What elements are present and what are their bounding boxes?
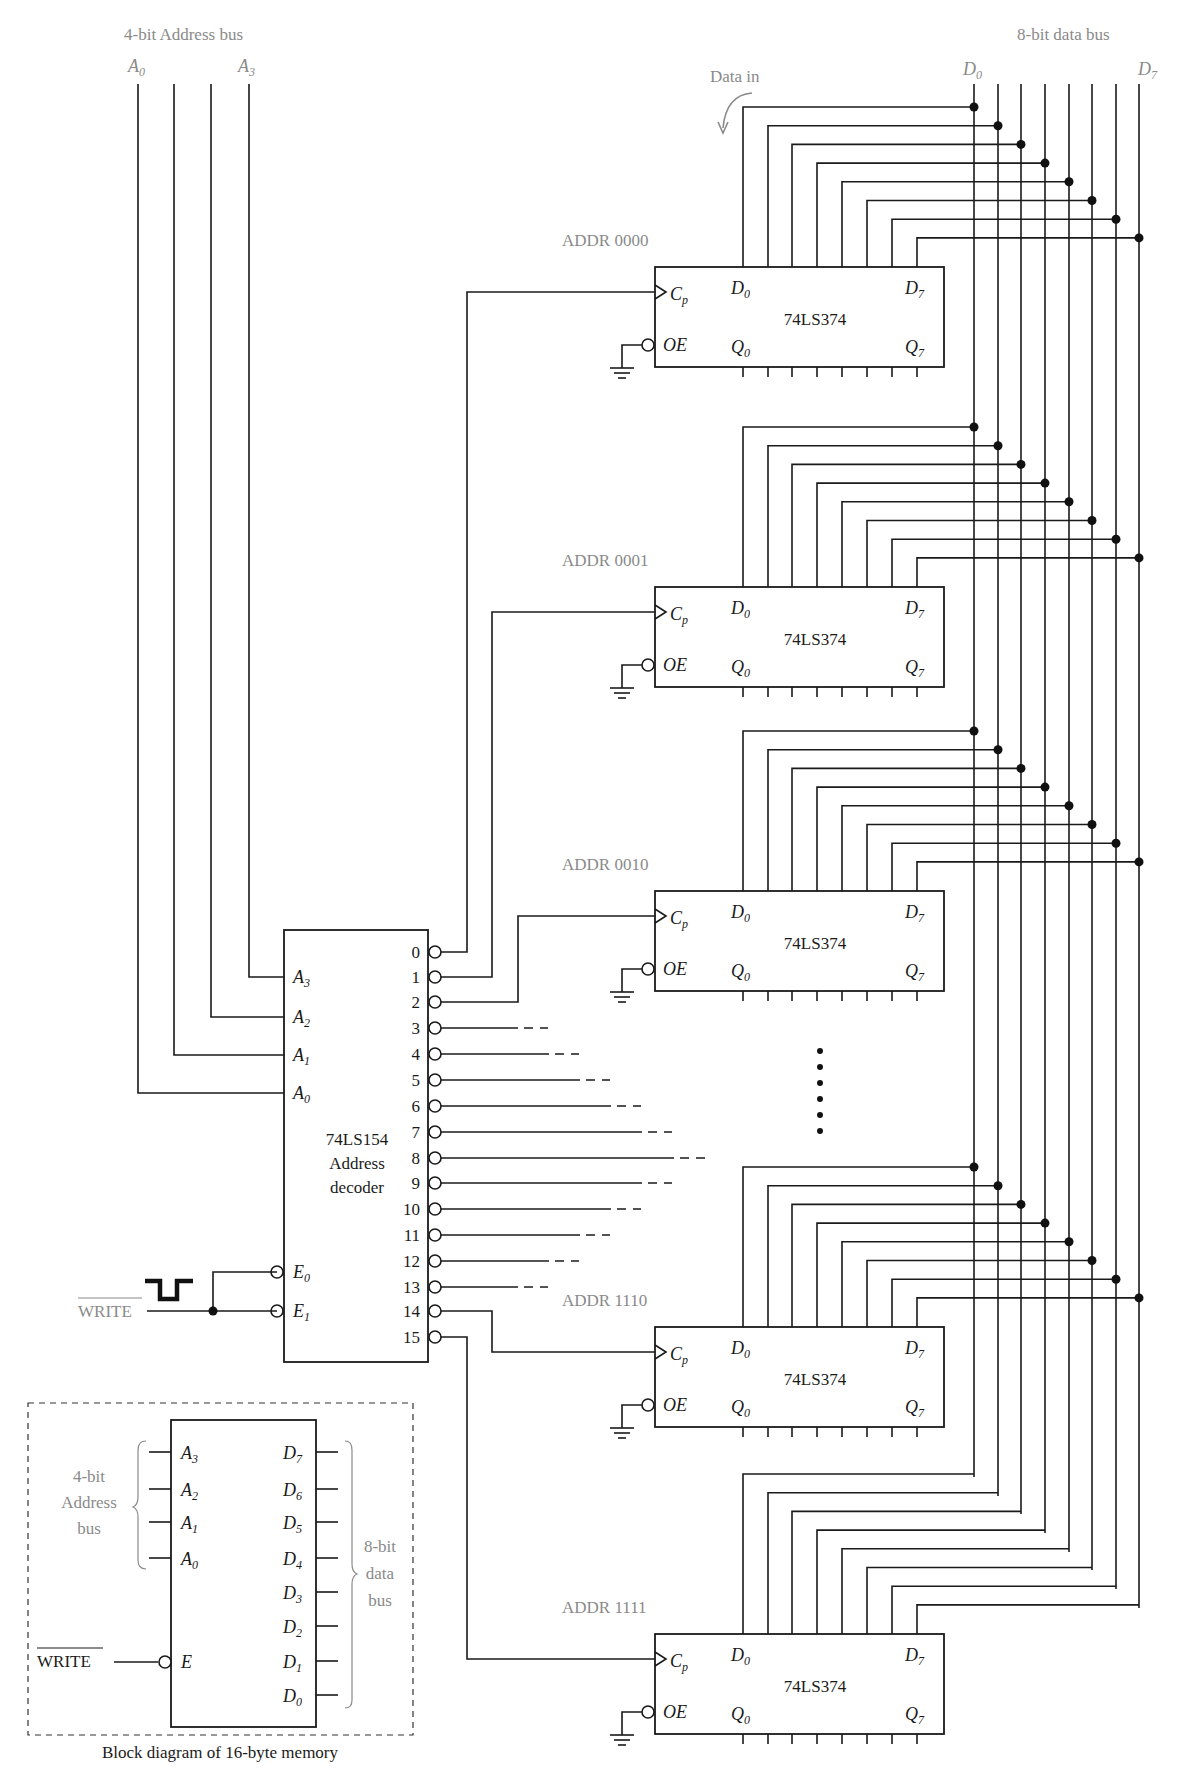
block-data-bus-label: 8-bit (364, 1537, 396, 1556)
data-bus-d0-label: D0 (962, 59, 982, 82)
data-brace-icon (345, 1441, 357, 1708)
register-3-d5-tap (867, 1261, 1092, 1328)
bus-junction-dot (1112, 839, 1121, 848)
register-1-d3-tap (817, 483, 1045, 587)
bus-junction-dot (1112, 215, 1121, 224)
memory-block-box (171, 1420, 316, 1727)
address-brace-icon (133, 1441, 146, 1569)
ellipsis-dot (817, 1112, 823, 1118)
output-bubble-icon (429, 1022, 441, 1034)
register-3-d3-tap (817, 1223, 1045, 1327)
address-bus-a0-label: A0 (127, 56, 145, 79)
decoder-output-13-label: 13 (403, 1278, 420, 1297)
bus-junction-dot (1017, 140, 1026, 149)
register-1-d1-tap (768, 446, 998, 587)
ellipsis-dot (817, 1080, 823, 1086)
bus-junction-dot (1065, 1237, 1074, 1246)
block-data-bus-label: bus (368, 1591, 392, 1610)
bus-junction-dot (1041, 159, 1050, 168)
register-2-d0-tap (743, 731, 974, 891)
bus-junction-dot (1088, 820, 1097, 829)
bus-junction-dot (1088, 516, 1097, 525)
output-bubble-icon (429, 1048, 441, 1060)
bus-junction-dot (1065, 801, 1074, 810)
register-addr-0000: ADDR 0000CpOED0D7Q0Q774LS374 (562, 231, 944, 378)
register-chip-name: 74LS374 (784, 1370, 847, 1389)
bus-junction-dot (1135, 857, 1144, 866)
register-0-d5-tap (867, 201, 1092, 268)
oe-ground-wire (622, 1712, 642, 1735)
bus-junction-dot (970, 727, 979, 736)
register-1-d4-tap (842, 502, 1069, 587)
oe-bubble-icon (642, 1399, 654, 1411)
oe-label: OE (663, 335, 687, 355)
decoder-subtitle: Address (329, 1154, 385, 1173)
output-bubble-icon (429, 1331, 441, 1343)
register-address-label: ADDR 1111 (562, 1598, 647, 1617)
oe-bubble-icon (642, 963, 654, 975)
decoder-output-11-label: 11 (404, 1226, 420, 1245)
clock-route-output-14 (441, 1311, 655, 1352)
oe-label: OE (663, 1395, 687, 1415)
more-registers-ellipsis (817, 1048, 823, 1134)
register-chip-name: 74LS374 (784, 630, 847, 649)
block-address-bus-label: 4-bit (73, 1467, 105, 1486)
output-bubble-icon (429, 946, 441, 958)
output-bubble-icon (429, 1100, 441, 1112)
oe-label: OE (663, 655, 687, 675)
output-bubble-icon (429, 1305, 441, 1317)
register-2-d7-tap (917, 862, 1139, 891)
decoder-output-6-label: 6 (412, 1097, 421, 1116)
bus-junction-dot (1017, 1200, 1026, 1209)
register-4-d5-tap (867, 1568, 1092, 1635)
register-0-d0-tap (743, 107, 974, 267)
oe-label: OE (663, 959, 687, 979)
register-addr-1110: ADDR 1110CpOED0D7Q0Q774LS374 (562, 1291, 944, 1438)
bus-junction-dot (1017, 460, 1026, 469)
clock-route-output-1 (441, 612, 655, 977)
decoder-output-10-label: 10 (403, 1200, 420, 1219)
address-decoder: A3A2A1A0E0E174LS154Addressdecoder0123456… (271, 930, 441, 1362)
memory-schematic: 4-bit Address bus 8-bit data bus A0 A3 D… (0, 0, 1177, 1784)
output-bubble-icon (429, 1177, 441, 1189)
decoder-output-3-label: 3 (412, 1019, 421, 1038)
bus-junction-dot (1088, 1256, 1097, 1265)
decoder-output-4-label: 4 (412, 1045, 421, 1064)
register-4-d4-tap (842, 1549, 1069, 1634)
ellipsis-dot (817, 1128, 823, 1134)
block-write-label: WRITE (37, 1652, 91, 1671)
bus-junction-dot (1088, 196, 1097, 205)
register-2-d4-tap (842, 806, 1069, 891)
bus-junction-dot (970, 1163, 979, 1172)
data-bus-d7-label: D7 (1137, 59, 1158, 82)
write-junction-dot (209, 1307, 218, 1316)
clock-route-output-0 (441, 292, 655, 952)
register-4-d1-tap (768, 1493, 998, 1634)
register-0-d1-tap (768, 126, 998, 267)
decoder-output-12-label: 12 (403, 1252, 420, 1271)
register-address-label: ADDR 0010 (562, 855, 648, 874)
register-1-d6-tap (892, 539, 1116, 587)
register-4-d0-tap (743, 1474, 974, 1634)
register-1-d7-tap (917, 558, 1139, 587)
register-4-d3-tap (817, 1530, 1045, 1634)
bus-junction-dot (1135, 233, 1144, 242)
oe-bubble-icon (642, 339, 654, 351)
decoder-subtitle: decoder (330, 1178, 384, 1197)
output-bubble-icon (429, 1203, 441, 1215)
decoder-output-14-label: 14 (403, 1302, 421, 1321)
bus-junction-dot (1041, 1219, 1050, 1228)
bus-junction-dot (994, 745, 1003, 754)
register-3-d7-tap (917, 1298, 1139, 1327)
register-array: ADDR 0000CpOED0D7Q0Q774LS374ADDR 0001CpO… (562, 231, 944, 1745)
bus-junction-dot (970, 423, 979, 432)
register-addr-0010: ADDR 0010CpOED0D7Q0Q774LS374 (562, 855, 944, 1002)
output-bubble-icon (429, 1255, 441, 1267)
block-enable-label: E (180, 1652, 192, 1672)
register-addr-0001: ADDR 0001CpOED0D7Q0Q774LS374 (562, 551, 944, 698)
block-data-bus-label: data (366, 1564, 395, 1583)
register-3-d0-tap (743, 1167, 974, 1327)
register-4-d7-tap (917, 1605, 1139, 1634)
register-3-d6-tap (892, 1279, 1116, 1327)
oe-ground-wire (622, 345, 642, 368)
